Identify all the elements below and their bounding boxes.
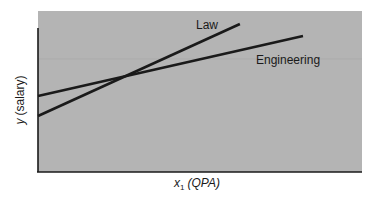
- series-label-engineering: Engineering: [256, 53, 320, 67]
- y-axis-unit: (salary): [13, 75, 27, 115]
- x-axis-unit: (QPA): [188, 176, 220, 190]
- plot-background: [38, 11, 362, 172]
- y-axis-var: y: [13, 118, 27, 126]
- series-label-law: Law: [196, 18, 218, 32]
- x-axis-label: x1(QPA): [173, 176, 220, 192]
- y-axis-label: y(salary): [13, 75, 27, 125]
- x-axis-subscript: 1: [180, 183, 185, 192]
- salary-vs-qpa-chart: Law Engineering x1(QPA) y(salary): [0, 0, 382, 197]
